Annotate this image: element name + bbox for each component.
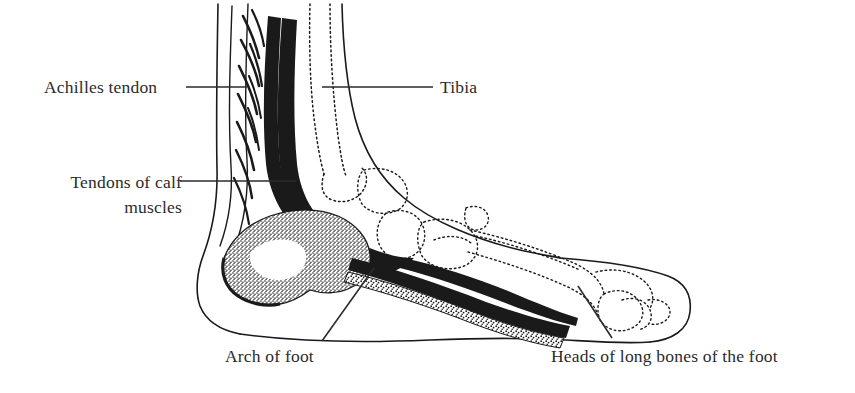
label-heads-of-long-bones: Heads of long bones of the foot	[551, 345, 778, 369]
tibia-bone-outline	[310, 4, 367, 202]
heads-leader	[578, 286, 612, 338]
label-tibia: Tibia	[440, 76, 477, 100]
label-tendons-line-2: muscles	[34, 195, 182, 220]
leader-lines-group	[180, 87, 612, 341]
label-arch-of-foot: Arch of foot	[225, 345, 314, 369]
anatomical-figure: Achilles tendon Tendons of calf muscles …	[0, 0, 855, 393]
label-tendons-line-1: Tendons of calf	[34, 170, 182, 195]
label-achilles-tendon: Achilles tendon	[44, 76, 157, 100]
calcaneus-heel-bone	[223, 210, 371, 305]
label-tendons-of-calf-muscles: Tendons of calf muscles	[34, 170, 182, 221]
calf-tendon-fibers	[220, 4, 264, 250]
plantar-fascia-band	[344, 258, 578, 348]
